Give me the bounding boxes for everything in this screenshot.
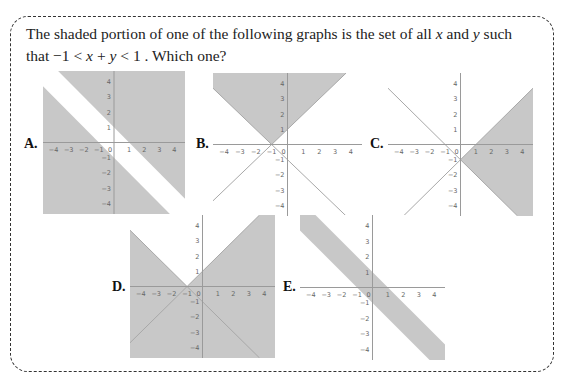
- svg-text:−2: −2: [101, 169, 111, 177]
- svg-text:−2: −2: [337, 291, 347, 299]
- svg-text:3: 3: [247, 290, 251, 298]
- svg-text:−4: −4: [101, 200, 111, 208]
- svg-text:−2: −2: [275, 171, 285, 179]
- svg-text:−4: −4: [448, 202, 458, 210]
- svg-text:−3: −3: [409, 148, 419, 156]
- svg-text:0: 0: [281, 148, 285, 156]
- question-line-2: that −1 < x + y < 1 . Which one?: [26, 45, 546, 67]
- svg-text:3: 3: [417, 291, 421, 299]
- svg-text:0: 0: [454, 148, 458, 156]
- svg-text:4: 4: [453, 80, 457, 88]
- svg-text:−3: −3: [64, 146, 74, 154]
- svg-text:2: 2: [280, 111, 284, 119]
- text: that −1 <: [26, 47, 86, 64]
- svg-text:1: 1: [453, 126, 457, 134]
- svg-text:1: 1: [301, 148, 305, 156]
- option-d-label[interactable]: D.: [112, 279, 126, 295]
- svg-text:−2: −2: [360, 315, 370, 323]
- svg-text:−1: −1: [94, 146, 104, 154]
- question-line-1: The shaded portion of one of the followi…: [26, 23, 546, 45]
- svg-text:−1: −1: [352, 291, 362, 299]
- svg-text:4: 4: [195, 222, 199, 230]
- graph-b[interactable]: −4−3−2−1012344321−1−2−3−4: [213, 73, 362, 216]
- svg-text:−2: −2: [448, 171, 458, 179]
- graph-c[interactable]: −4−3−2−1012344321−1−2−3−4: [388, 73, 533, 216]
- var-x: x: [86, 47, 93, 64]
- svg-text:−3: −3: [190, 329, 200, 337]
- svg-text:−4: −4: [360, 346, 370, 354]
- svg-text:4: 4: [172, 146, 176, 154]
- graph-a[interactable]: −4−3−2−1012344321−1−2−3−4: [43, 71, 185, 214]
- svg-text:2: 2: [195, 253, 199, 261]
- svg-text:−3: −3: [101, 185, 111, 193]
- question-text: The shaded portion of one of the followi…: [26, 23, 546, 67]
- svg-text:−4: −4: [394, 148, 404, 156]
- text: +: [93, 47, 110, 64]
- svg-text:2: 2: [365, 253, 369, 261]
- option-a-label[interactable]: A.: [24, 136, 38, 152]
- svg-text:−4: −4: [49, 146, 59, 154]
- svg-text:3: 3: [157, 146, 161, 154]
- svg-text:2: 2: [401, 291, 405, 299]
- var-x: x: [436, 25, 443, 42]
- option-e-label[interactable]: E.: [283, 279, 296, 295]
- svg-text:1: 1: [216, 290, 220, 298]
- svg-text:3: 3: [107, 93, 111, 101]
- svg-text:1: 1: [195, 268, 199, 276]
- svg-text:1: 1: [386, 291, 390, 299]
- svg-text:−1: −1: [267, 148, 277, 156]
- text: and: [443, 25, 473, 42]
- svg-text:−1: −1: [440, 148, 450, 156]
- svg-text:4: 4: [349, 148, 353, 156]
- svg-text:−1: −1: [360, 299, 370, 307]
- svg-text:2: 2: [231, 290, 235, 298]
- svg-text:0: 0: [366, 291, 370, 299]
- svg-text:4: 4: [520, 148, 524, 156]
- svg-text:−1: −1: [275, 156, 285, 164]
- svg-text:−1: −1: [190, 298, 200, 306]
- svg-text:−3: −3: [360, 330, 370, 338]
- text: such: [480, 25, 512, 42]
- svg-text:0: 0: [196, 290, 200, 298]
- svg-text:−2: −2: [425, 148, 435, 156]
- svg-text:−4: −4: [275, 202, 285, 210]
- svg-text:3: 3: [365, 238, 369, 246]
- svg-text:−1: −1: [448, 156, 458, 164]
- text: The shaded portion of one of the followi…: [26, 25, 436, 42]
- svg-text:3: 3: [453, 95, 457, 103]
- svg-text:−3: −3: [151, 290, 161, 298]
- svg-text:−2: −2: [190, 313, 200, 321]
- svg-text:−1: −1: [101, 154, 111, 162]
- svg-text:0: 0: [108, 146, 112, 154]
- var-y: y: [473, 25, 480, 42]
- svg-text:−4: −4: [219, 148, 229, 156]
- svg-text:2: 2: [317, 148, 321, 156]
- svg-text:−1: −1: [182, 290, 192, 298]
- svg-text:4: 4: [262, 290, 266, 298]
- svg-text:1: 1: [365, 269, 369, 277]
- svg-text:−3: −3: [321, 291, 331, 299]
- svg-text:−4: −4: [136, 290, 146, 298]
- svg-text:3: 3: [505, 148, 509, 156]
- svg-text:−4: −4: [190, 344, 200, 352]
- svg-text:1: 1: [474, 148, 478, 156]
- svg-text:3: 3: [333, 148, 337, 156]
- svg-text:2: 2: [453, 111, 457, 119]
- svg-text:−2: −2: [167, 290, 177, 298]
- svg-text:4: 4: [107, 78, 111, 86]
- svg-text:−2: −2: [79, 146, 89, 154]
- svg-text:2: 2: [107, 109, 111, 117]
- option-b-label[interactable]: B.: [196, 136, 209, 152]
- graph-e[interactable]: −4−3−2−1012344321−1−2−3−4: [300, 215, 445, 360]
- svg-text:−4: −4: [306, 291, 316, 299]
- svg-text:3: 3: [195, 237, 199, 245]
- graph-d[interactable]: −4−3−2−1012344321−1−2−3−4: [130, 215, 275, 358]
- svg-text:−3: −3: [235, 148, 245, 156]
- svg-text:4: 4: [432, 291, 436, 299]
- svg-text:2: 2: [489, 148, 493, 156]
- svg-text:4: 4: [365, 222, 369, 230]
- option-c-label[interactable]: C.: [370, 136, 384, 152]
- svg-text:2: 2: [142, 146, 146, 154]
- svg-text:1: 1: [280, 126, 284, 134]
- svg-text:1: 1: [107, 124, 111, 132]
